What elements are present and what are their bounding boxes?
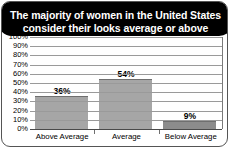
y-axis-tick-label: 20%	[13, 107, 28, 115]
bar[interactable]: 54%	[99, 79, 152, 129]
y-axis: 100%90%80%70%60%50%40%30%20%10%0%	[2, 37, 29, 129]
x-axis: Above AverageAverageBelow Average	[30, 130, 223, 144]
gridline	[30, 92, 222, 93]
gridline	[30, 37, 222, 38]
bar[interactable]: 9%	[163, 121, 216, 129]
chart-card: The majority of women in the United Stat…	[1, 1, 228, 147]
x-axis-category-label: Average	[94, 130, 158, 144]
gridline	[30, 120, 222, 121]
chart-title-banner: The majority of women in the United Stat…	[1, 1, 228, 36]
x-axis-category-label: Above Average	[30, 130, 94, 144]
y-axis-tick-label: 70%	[13, 61, 28, 69]
bar-value-label: 36%	[53, 86, 70, 96]
x-axis-category-label: Below Average	[159, 130, 223, 144]
y-axis-tick-label: 50%	[13, 79, 28, 87]
y-axis-tick-label: 100%	[9, 33, 28, 41]
x-axis-tick	[159, 130, 160, 134]
y-axis-tick-label: 30%	[13, 97, 28, 105]
chart-title-line-2: consider their looks average or above	[23, 22, 208, 35]
y-axis-tick-label: 60%	[13, 70, 28, 78]
gridline	[30, 74, 222, 75]
gridline	[30, 65, 222, 66]
plot-area: 36%54%9%	[30, 37, 223, 129]
y-axis-tick-label: 90%	[13, 42, 28, 50]
y-axis-tick-label: 80%	[13, 51, 28, 59]
gridline	[30, 83, 222, 84]
y-axis-tick-label: 40%	[13, 88, 28, 96]
x-axis-tick	[94, 130, 95, 134]
gridline	[30, 46, 222, 47]
chart-plot-wrapper: 100%90%80%70%60%50%40%30%20%10%0% 36%54%…	[2, 37, 228, 147]
gridline	[30, 55, 222, 56]
y-axis-tick-label: 0%	[17, 125, 28, 133]
gridline	[30, 101, 222, 102]
y-axis-tick-label: 10%	[13, 116, 28, 124]
gridline	[30, 111, 222, 112]
chart-title-line-1: The majority of women in the United Stat…	[10, 9, 221, 22]
